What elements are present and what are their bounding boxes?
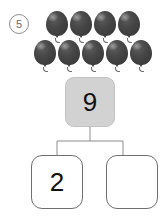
balloon-body	[130, 40, 152, 65]
balloon-body	[118, 11, 140, 36]
problem-number-badge: 5	[9, 14, 29, 34]
balloon-body	[106, 40, 128, 65]
balloon-icon	[81, 40, 105, 70]
balloon-string	[115, 67, 120, 72]
balloon-string	[43, 67, 48, 72]
balloon-icon	[45, 11, 69, 41]
balloon-row-bottom	[33, 40, 153, 70]
number-bond-part-box-right[interactable]	[106, 155, 158, 209]
balloon-body	[70, 11, 92, 36]
balloon-icon	[129, 40, 153, 70]
balloon-icon	[117, 11, 141, 41]
balloon-icon	[93, 11, 117, 41]
balloon-icon	[69, 11, 93, 41]
balloon-string	[139, 67, 144, 72]
balloon-body	[82, 40, 104, 65]
balloon-row-top	[45, 11, 141, 41]
number-bond-part-box-left[interactable]: 2	[31, 155, 83, 209]
balloon-body	[94, 11, 116, 36]
balloon-body	[46, 11, 68, 36]
balloon-body	[58, 40, 80, 65]
balloon-string	[91, 67, 96, 72]
balloon-string	[67, 67, 72, 72]
worksheet-problem: 5	[0, 0, 167, 217]
balloon-icon	[105, 40, 129, 70]
balloon-icon	[33, 40, 57, 70]
balloon-icon	[57, 40, 81, 70]
balloon-body	[34, 40, 56, 65]
number-bond-whole-box[interactable]: 9	[65, 77, 115, 127]
